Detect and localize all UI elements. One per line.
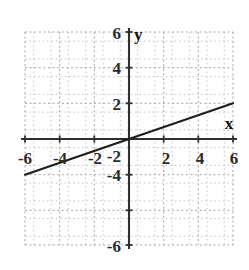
y-axis-label: y [134, 25, 143, 44]
x-tick-label-2: 2 [162, 149, 171, 168]
x-tick-label--2: -2 [88, 149, 102, 168]
x-tick-label--6: -6 [18, 149, 32, 168]
x-tick-label-4: 4 [196, 149, 205, 168]
x-tick-label-6: 6 [230, 149, 239, 168]
y-tick-label-6: 6 [113, 24, 122, 43]
y-tick-label--6: -6 [107, 237, 121, 256]
y-tick-label-4: 4 [113, 59, 122, 78]
y-tick-label-2: 2 [113, 95, 122, 114]
y-tick-label--4: -4 [107, 166, 122, 185]
x-axis-label: x [225, 114, 234, 133]
y-tick-label--2: -2 [107, 147, 121, 166]
x-tick-label--4: -4 [53, 149, 68, 168]
graph-canvas: -6 -4 -2 2 4 6 6 4 2 -2 -4 -6 y x [0, 0, 249, 270]
coordinate-graph-figure: -6 -4 -2 2 4 6 6 4 2 -2 -4 -6 y x [0, 0, 249, 270]
